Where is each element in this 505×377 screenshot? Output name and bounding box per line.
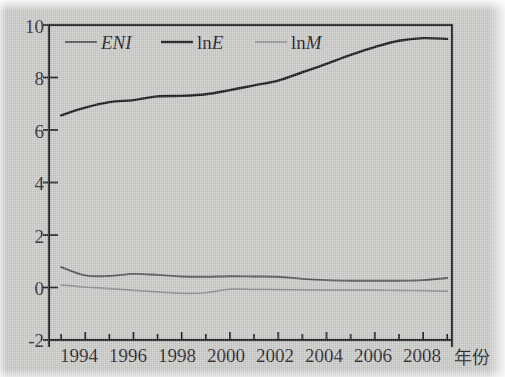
x-tick-label-1996: 1996 bbox=[100, 346, 156, 365]
legend-label-eni-text: ENI bbox=[101, 32, 132, 53]
data-lines bbox=[61, 38, 447, 293]
x-tick-label-1994: 1994 bbox=[51, 346, 107, 365]
y-tick-label-8: 8 bbox=[8, 69, 44, 88]
x-tick-label-2004: 2004 bbox=[296, 346, 352, 365]
x-tick-label-2000: 2000 bbox=[198, 346, 254, 365]
legend-label-lne: lnE bbox=[197, 33, 223, 52]
x-tick-label-2006: 2006 bbox=[345, 346, 401, 365]
series-line-lnm bbox=[61, 285, 447, 293]
y-axis-ticks bbox=[43, 25, 58, 340]
x-tick-label-2002: 2002 bbox=[247, 346, 303, 365]
y-tick-label-4: 4 bbox=[8, 174, 44, 193]
legend-label-lnm-var: M bbox=[306, 32, 322, 53]
chart-figure: 10 8 6 4 2 0 -2 1994 1996 1998 2000 2002… bbox=[0, 0, 505, 377]
series-line-eni bbox=[61, 267, 447, 281]
y-tick-label-6: 6 bbox=[8, 122, 44, 141]
legend-label-lne-var: E bbox=[212, 32, 224, 53]
x-tick-label-1998: 1998 bbox=[149, 346, 205, 365]
y-tick-label-0: 0 bbox=[8, 279, 44, 298]
y-tick-label-2: 2 bbox=[8, 227, 44, 246]
legend-label-lnm: lnM bbox=[291, 33, 322, 52]
axes-frame bbox=[49, 25, 452, 340]
plot-area bbox=[0, 0, 505, 377]
x-axis-title: 年份 bbox=[454, 349, 490, 367]
legend-label-lne-prefix: ln bbox=[197, 32, 212, 53]
y-tick-label-neg2: -2 bbox=[2, 331, 44, 350]
y-tick-label-10: 10 bbox=[8, 17, 44, 36]
legend-label-lnm-prefix: ln bbox=[291, 32, 306, 53]
legend-label-eni: ENI bbox=[101, 33, 132, 52]
x-tick-label-2008: 2008 bbox=[394, 346, 450, 365]
